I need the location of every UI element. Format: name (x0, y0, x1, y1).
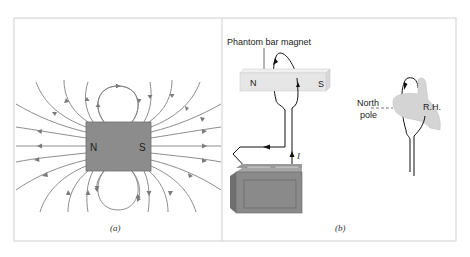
right-hand-label: R.H. (423, 102, 441, 112)
phantom-bar-magnet: N S (240, 69, 330, 91)
panel-b: Phantom bar magnet N S I (227, 37, 441, 233)
figure-canvas: N S (a) Phantom bar magnet N S I (0, 0, 470, 257)
caption-a: (a) (110, 223, 121, 233)
rhr-arrow-icon (404, 82, 408, 90)
north-label: N (90, 142, 97, 153)
caption-b: (b) (335, 223, 346, 233)
battery (230, 164, 302, 213)
wire-arrow-icon (263, 145, 270, 150)
panel-a: N S (a) (16, 80, 221, 233)
circuit-wire (233, 100, 285, 170)
loop-arrow-icon (273, 58, 278, 65)
north-pole-label-line2: pole (360, 110, 377, 120)
current-arrow-icon (290, 151, 295, 157)
phantom-magnet-label: Phantom bar magnet (227, 37, 312, 47)
south-label: S (139, 142, 146, 153)
phantom-south-label: S (318, 79, 324, 89)
north-pole-label: North (357, 98, 379, 108)
rhr-loop-front (414, 116, 425, 176)
current-label: I (296, 151, 301, 161)
phantom-north-label: N (250, 78, 257, 88)
